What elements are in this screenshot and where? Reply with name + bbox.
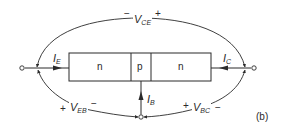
collector-current-label: IC [223,53,231,64]
base-current-arrow-icon [139,91,144,100]
emitter-current-arrow-icon [53,66,62,71]
panel-label: (b) [256,112,268,122]
vbc-label: VBC [192,102,211,113]
vbc-plus-sign: + [183,101,189,111]
vce-label: VCE [133,14,152,25]
base-region-label: p [137,62,143,72]
emitter-region-label: n [97,62,103,72]
vce-minus-sign: − [124,9,130,19]
vbc-minus-sign: − [215,103,221,113]
base-terminal-icon [139,115,143,119]
emitter-lead [20,66,69,71]
base-current-label: IB [147,94,155,105]
veb-plus-sign: + [60,104,66,114]
veb-arc [38,70,138,117]
emitter-terminal-icon [20,66,24,70]
collector-lead [211,66,256,71]
veb-label: VEB [69,102,88,113]
vce-plus-sign: + [155,9,161,19]
emitter-current-label: IE [53,53,61,64]
collector-terminal-icon [252,66,256,70]
base-lead [139,81,144,119]
veb-minus-sign: − [91,99,97,109]
collector-current-arrow-icon [219,66,228,71]
collector-region-label: n [178,62,184,72]
